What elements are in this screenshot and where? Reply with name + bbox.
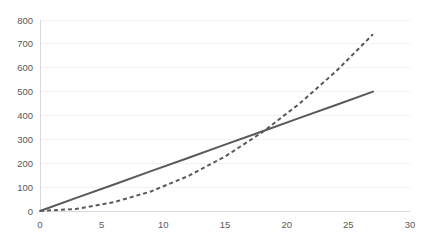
y-axis-tick-labels: 800 700 600 500 400 300 200 100 0: [17, 15, 33, 217]
x-tick-label-0: 0: [37, 219, 42, 230]
x-tick-label-25: 25: [343, 219, 354, 230]
series-linear-solid: [40, 92, 373, 211]
x-tick-label-10: 10: [158, 219, 169, 230]
gridlines: [40, 20, 410, 187]
chart-screenshot: 800 700 600 500 400 300 200 100 0 0 5 10…: [0, 0, 428, 239]
y-tick-label-0: 0: [28, 206, 33, 217]
series-quadratic-dashed: [40, 34, 373, 211]
x-tick-label-15: 15: [220, 219, 231, 230]
y-tick-label-600: 600: [17, 62, 33, 73]
y-tick-label-700: 700: [17, 38, 33, 49]
x-tick-label-20: 20: [281, 219, 292, 230]
y-tick-label-800: 800: [17, 15, 33, 26]
y-tick-label-300: 300: [17, 134, 33, 145]
y-tick-label-500: 500: [17, 86, 33, 97]
y-tick-label-100: 100: [17, 182, 33, 193]
line-chart: 800 700 600 500 400 300 200 100 0 0 5 10…: [0, 0, 428, 239]
y-tick-label-400: 400: [17, 110, 33, 121]
x-tick-label-5: 5: [99, 219, 104, 230]
x-tick-label-30: 30: [405, 219, 416, 230]
y-tick-label-200: 200: [17, 158, 33, 169]
x-axis-tick-labels: 0 5 10 15 20 25 30: [37, 219, 415, 230]
